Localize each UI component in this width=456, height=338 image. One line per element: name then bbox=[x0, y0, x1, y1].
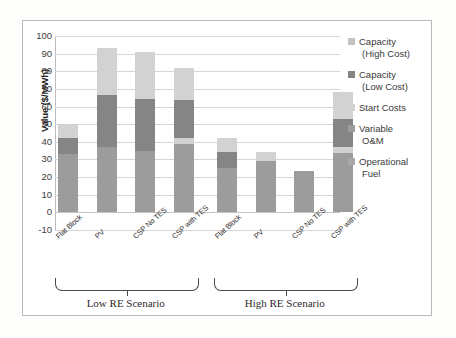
y-tick-label-20: 20 bbox=[24, 172, 52, 182]
legend-label: Capacity bbox=[359, 36, 444, 48]
legend-swatch-icon bbox=[348, 125, 355, 132]
group-brace-low-re-scenario bbox=[55, 278, 199, 291]
y-tick-label--10: -10 bbox=[24, 225, 52, 235]
bar-segment-capacity-low-cost- bbox=[97, 95, 117, 147]
chart-legend: Capacity(High Cost)Capacity(Low Cost)Sta… bbox=[348, 36, 444, 189]
legend-label: Operational bbox=[359, 156, 444, 168]
legend-item-capacity: Capacity(High Cost) bbox=[348, 36, 444, 60]
y-tick-label-90: 90 bbox=[24, 49, 52, 59]
y-tick-label-80: 80 bbox=[24, 66, 52, 76]
legend-label-line2: (Low Cost) bbox=[359, 81, 444, 93]
y-tick-label-60: 60 bbox=[24, 102, 52, 112]
bar-segment-variable-o-m bbox=[135, 151, 155, 213]
bar-segment-variable-o-m bbox=[256, 161, 276, 212]
legend-swatch-icon bbox=[348, 38, 355, 45]
legend-label: Start Costs bbox=[359, 102, 444, 114]
y-tick-label-0: 0 bbox=[24, 207, 52, 217]
legend-item-variable: VariableO&M bbox=[348, 123, 444, 147]
legend-item-start-costs: Start Costs bbox=[348, 102, 444, 114]
bar-segment-capacity-low-cost- bbox=[58, 138, 78, 154]
y-axis-tick-labels: 1009080706050403020100-10 bbox=[22, 0, 52, 338]
bar-segment-variable-o-m bbox=[294, 171, 314, 212]
bar-segment-capacity-low-cost- bbox=[174, 100, 194, 139]
bar-segment-variable-o-m bbox=[174, 144, 194, 213]
bar-segment-start-costs bbox=[174, 68, 194, 100]
bar-segment-start-costs bbox=[217, 138, 237, 151]
group-brace-high-re-scenario bbox=[214, 278, 358, 291]
group-label-high-re-scenario: High RE Scenario bbox=[214, 297, 356, 309]
chart-figure: Value ($/MWh) 1009080706050403020100-10 … bbox=[0, 0, 456, 338]
y-tick-label-10: 10 bbox=[24, 190, 52, 200]
legend-item-operational: OperationalFuel bbox=[348, 156, 444, 180]
legend-swatch-icon bbox=[348, 104, 355, 111]
legend-swatch-icon bbox=[348, 158, 355, 165]
bar-segment-start-costs bbox=[58, 124, 78, 138]
y-tick-label-100: 100 bbox=[24, 31, 52, 41]
legend-item-capacity: Capacity(Low Cost) bbox=[348, 69, 444, 93]
group-label-low-re-scenario: Low RE Scenario bbox=[55, 297, 197, 309]
bar-segment-start-costs bbox=[97, 48, 117, 95]
legend-label: Capacity bbox=[359, 69, 444, 81]
plot-area bbox=[55, 36, 340, 230]
legend-label-line2: (High Cost) bbox=[359, 48, 444, 60]
bar-segment-start-costs bbox=[256, 152, 276, 161]
legend-label-line2: O&M bbox=[359, 135, 444, 147]
legend-swatch-icon bbox=[348, 71, 355, 78]
bar-segment-variable-o-m bbox=[97, 147, 117, 212]
legend-label: Variable bbox=[359, 123, 444, 135]
gridline-100 bbox=[55, 36, 340, 37]
bar-segment-capacity-low-cost- bbox=[217, 152, 237, 169]
y-tick-label-40: 40 bbox=[24, 137, 52, 147]
bar-segment-variable-o-m bbox=[58, 154, 78, 212]
bar-segment-capacity-low-cost- bbox=[135, 99, 155, 151]
bar-segment-start-costs bbox=[174, 138, 194, 143]
y-tick-label-70: 70 bbox=[24, 84, 52, 94]
bar-segment-start-costs bbox=[135, 52, 155, 99]
legend-label-line2: Fuel bbox=[359, 168, 444, 180]
bar-segment-variable-o-m bbox=[217, 168, 237, 212]
y-tick-label-50: 50 bbox=[24, 119, 52, 129]
y-tick-label-30: 30 bbox=[24, 154, 52, 164]
